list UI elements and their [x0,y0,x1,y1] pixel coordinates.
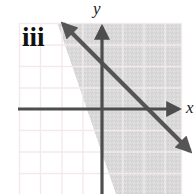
figure-label-iii: iii [22,24,45,51]
y-axis-label: y [93,0,101,17]
x-axis-label: x [186,99,194,116]
graph-figure: iii y x [0,0,196,194]
